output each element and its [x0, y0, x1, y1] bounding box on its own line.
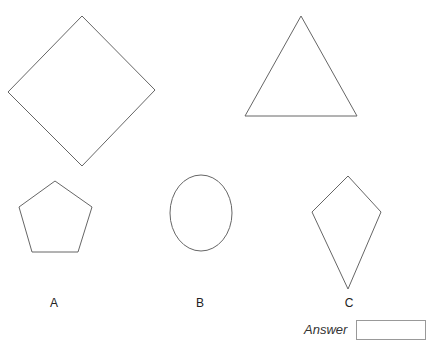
square-shape	[8, 16, 155, 166]
option-label-c: C	[345, 296, 354, 310]
option-label-b: B	[196, 296, 204, 310]
shapes-canvas	[0, 0, 438, 353]
circle-shape	[170, 175, 232, 251]
kite-shape	[312, 176, 381, 289]
pentagon-shape	[19, 181, 92, 252]
option-label-a: A	[50, 296, 58, 310]
triangle-shape	[245, 16, 357, 116]
answer-label: Answer	[304, 322, 347, 337]
answer-input[interactable]	[356, 320, 426, 340]
